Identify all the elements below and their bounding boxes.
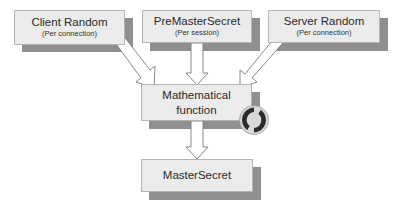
node-server-random: Server Random (Per connection) — [268, 10, 380, 43]
math-function-label-line1: Mathematical — [162, 89, 230, 102]
math-function-label-line2: function — [176, 104, 216, 117]
node-master-secret: MasterSecret — [141, 159, 253, 192]
client-random-label: Client Random — [31, 16, 107, 29]
premaster-secret-label: PreMasterSecret — [154, 15, 240, 28]
premaster-secret-sublabel: (Per session) — [175, 28, 219, 38]
server-random-label: Server Random — [284, 15, 365, 28]
node-client-random: Client Random (Per connection) — [14, 10, 125, 45]
master-secret-label: MasterSecret — [163, 169, 231, 182]
node-premaster-secret: PreMasterSecret (Per session) — [142, 10, 252, 43]
server-random-sublabel: (Per connection) — [296, 28, 351, 38]
node-math-function: Mathematical function — [141, 84, 252, 121]
arrow-premaster-to-function — [186, 43, 208, 85]
cycle-arrows-icon — [238, 104, 270, 136]
client-random-sublabel: (Per connection) — [42, 29, 97, 39]
diagram: Client Random (Per connection) PreMaster… — [0, 0, 399, 212]
arrow-function-to-mastersecret — [186, 121, 208, 159]
